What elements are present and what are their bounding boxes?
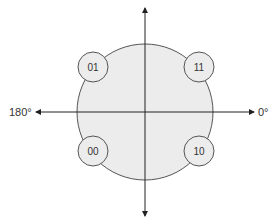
point-11: 11 <box>184 52 214 82</box>
constellation-diagram: 0° 180° 01 11 00 10 <box>0 0 276 224</box>
point-10: 10 <box>184 136 214 166</box>
point-01: 01 <box>78 52 108 82</box>
svg-text:01: 01 <box>87 62 99 73</box>
svg-text:00: 00 <box>87 146 99 157</box>
svg-text:11: 11 <box>194 62 205 73</box>
point-00: 00 <box>78 136 108 166</box>
label-180-degrees: 180° <box>9 106 32 118</box>
label-0-degrees: 0° <box>258 106 269 118</box>
diagram-canvas: 0° 180° 01 11 00 10 <box>0 0 276 224</box>
svg-text:10: 10 <box>193 146 205 157</box>
